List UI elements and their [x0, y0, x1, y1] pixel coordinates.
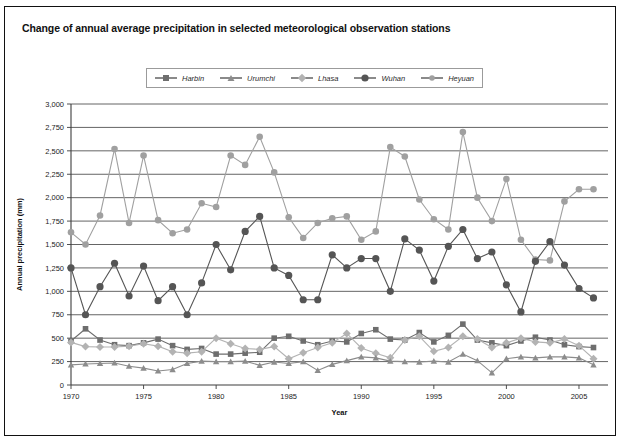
series-wuhan	[67, 213, 597, 319]
line-chart-svg: 02505007501,0001,2501,5001,7502,0002,250…	[0, 0, 623, 443]
svg-text:1990: 1990	[353, 392, 370, 401]
svg-text:1985: 1985	[280, 392, 297, 401]
svg-text:1,500: 1,500	[45, 240, 64, 249]
svg-text:3,000: 3,000	[45, 100, 64, 109]
svg-text:1,000: 1,000	[45, 287, 64, 296]
svg-text:2000: 2000	[498, 392, 515, 401]
svg-text:2,500: 2,500	[45, 147, 64, 156]
svg-text:750: 750	[51, 310, 64, 319]
svg-text:1,250: 1,250	[45, 264, 64, 273]
svg-text:2005: 2005	[571, 392, 588, 401]
svg-text:2,750: 2,750	[45, 123, 64, 132]
svg-text:2,000: 2,000	[45, 193, 64, 202]
svg-text:1,750: 1,750	[45, 217, 64, 226]
svg-text:0: 0	[60, 381, 64, 390]
svg-text:Year: Year	[332, 408, 348, 417]
series-heyuan	[68, 129, 597, 264]
svg-text:500: 500	[51, 334, 64, 343]
svg-text:Annual precipitation (mm): Annual precipitation (mm)	[15, 198, 24, 291]
chart-plot-area: 02505007501,0001,2501,5001,7502,0002,250…	[0, 0, 623, 443]
svg-text:250: 250	[51, 357, 64, 366]
svg-text:1970: 1970	[63, 392, 80, 401]
svg-text:2,250: 2,250	[45, 170, 64, 179]
svg-text:1995: 1995	[425, 392, 442, 401]
svg-text:1980: 1980	[208, 392, 225, 401]
svg-text:1975: 1975	[135, 392, 152, 401]
series-urumchi	[68, 351, 597, 376]
